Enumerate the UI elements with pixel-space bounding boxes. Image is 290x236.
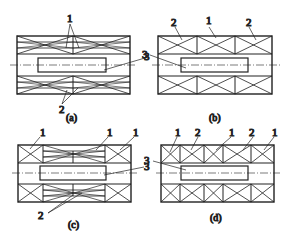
label-d-1-a: 1: [175, 126, 181, 138]
label-d-1-b: 1: [229, 126, 235, 138]
label-b-1: 1: [206, 14, 212, 26]
label-b-2-left: 2: [171, 16, 177, 28]
winding-diagram: 1 2 3 (a) 2 1 2 3 (b): [0, 0, 290, 236]
panel-b: [150, 27, 280, 94]
label-b-2-right: 2: [246, 16, 252, 28]
label-c-1-left: 1: [40, 126, 46, 138]
label-a-2: 2: [59, 103, 65, 115]
caption-b: (b): [209, 112, 221, 124]
caption-d: (d): [210, 212, 222, 224]
caption-c: (c): [68, 219, 79, 231]
label-d-3: 3: [144, 154, 150, 166]
panel-a: [10, 24, 145, 104]
label-d-2-a: 2: [195, 126, 201, 138]
panel-c: [12, 137, 144, 213]
label-a-1: 1: [67, 12, 73, 24]
label-b-3: 3: [142, 48, 148, 60]
label-d-1-c: 1: [272, 126, 278, 138]
label-c-1-right: 1: [133, 126, 139, 138]
caption-a: (a): [66, 112, 77, 124]
panel-d: [153, 137, 280, 202]
label-c-2: 2: [38, 209, 44, 221]
label-c-1-mid: 1: [107, 126, 113, 138]
label-d-2-b: 2: [249, 126, 255, 138]
